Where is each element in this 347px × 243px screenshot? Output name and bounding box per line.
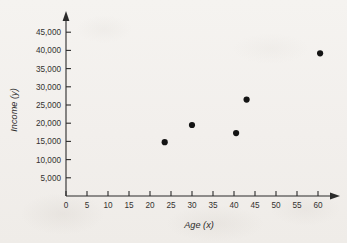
x-axis-tick-label: 0 — [64, 201, 69, 210]
x-axis-tick-label: 50 — [271, 201, 281, 210]
data-point — [189, 122, 195, 128]
x-axis-tick-label: 45 — [250, 201, 260, 210]
y-axis-tick-label: 30,000 — [36, 83, 61, 92]
scatter-plot-canvas: 5,00010,00015,00020,00025,00030,00035,00… — [0, 0, 347, 243]
x-axis-tick-label: 10 — [103, 201, 113, 210]
x-axis-tick-label: 5 — [85, 201, 90, 210]
scatter-plot-figure: 5,00010,00015,00020,00025,00030,00035,00… — [0, 0, 347, 243]
x-axis-arrowhead — [330, 193, 340, 200]
y-axis-tick-label: 35,000 — [36, 65, 61, 74]
data-point — [162, 139, 168, 145]
x-axis-tick-label: 30 — [187, 201, 197, 210]
x-axis-tick-label: 20 — [145, 201, 155, 210]
y-axis-tick-label: 5,000 — [41, 174, 62, 183]
data-point — [317, 50, 323, 56]
data-point — [233, 130, 239, 136]
x-axis-tick-label: 35 — [208, 201, 218, 210]
data-point — [244, 96, 250, 102]
x-axis-tick-label: 40 — [229, 201, 239, 210]
y-axis-tick-label: 15,000 — [36, 137, 61, 146]
x-axis-tick-label: 55 — [292, 201, 302, 210]
x-axis-tick-label: 15 — [124, 201, 134, 210]
y-axis-tick-label: 10,000 — [36, 156, 61, 165]
x-axis-title: Age (x) — [183, 220, 214, 230]
x-axis-ticks: 051015202530354045505560 — [64, 191, 323, 210]
y-axis-tick-label: 20,000 — [36, 119, 61, 128]
data-points-group — [162, 50, 324, 145]
x-axis-tick-label: 60 — [313, 201, 323, 210]
y-axis-title: Income (y) — [9, 88, 19, 131]
y-axis-tick-label: 25,000 — [36, 101, 61, 110]
y-axis-tick-label: 40,000 — [36, 46, 61, 55]
y-axis-arrowhead — [63, 11, 70, 21]
axes-group — [63, 11, 340, 199]
x-axis-tick-label: 25 — [166, 201, 176, 210]
y-axis-tick-label: 45,000 — [36, 28, 61, 37]
